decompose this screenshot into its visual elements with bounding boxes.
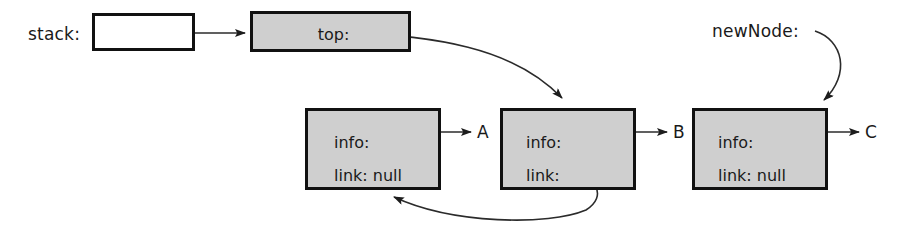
arrow-newnode-to-node-c xyxy=(815,31,841,100)
stack-pointer-box xyxy=(92,13,195,51)
stack-object-box: top: xyxy=(250,11,411,52)
node-c-data-letter: C xyxy=(865,124,877,141)
node-c-box: info: link: null xyxy=(692,108,828,190)
node-b-box: info: link: xyxy=(500,108,636,190)
stack-label: stack: xyxy=(28,26,80,43)
node-b-link-label: link: xyxy=(526,168,560,184)
node-a-data-letter: A xyxy=(477,124,489,141)
node-c-link-label: link: null xyxy=(718,168,786,184)
newnode-label: newNode: xyxy=(712,23,799,40)
node-a-link-label: link: null xyxy=(334,168,402,184)
node-b-info-label: info: xyxy=(526,135,561,151)
node-a-info-label: info: xyxy=(334,135,369,151)
node-a-box: info: link: null xyxy=(305,108,441,190)
node-c-info-label: info: xyxy=(718,135,753,151)
top-field-label: top: xyxy=(253,14,414,55)
linked-list-diagram: stack: top: info: link: null A info: lin… xyxy=(0,0,898,239)
node-b-data-letter: B xyxy=(673,124,685,141)
